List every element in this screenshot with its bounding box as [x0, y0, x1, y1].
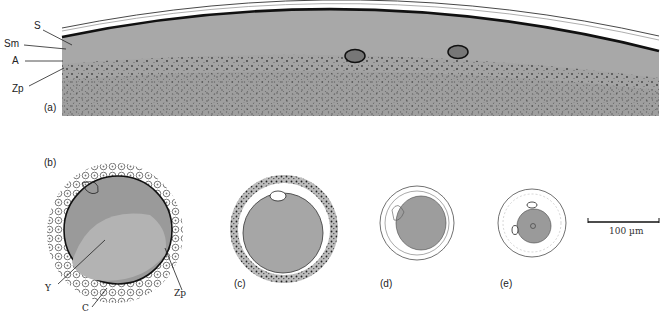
panel-label-b: (b): [44, 157, 56, 168]
scale-bar: [588, 218, 659, 223]
panel-a: [24, 0, 659, 116]
polar-body: [527, 202, 537, 208]
panel-label-c: (c): [234, 278, 246, 289]
panel-d: [380, 186, 454, 260]
egg-e: [517, 209, 551, 243]
leader-zp: [29, 68, 64, 86]
label-c: C: [82, 303, 89, 313]
panel-label-d: (d): [380, 278, 392, 289]
polar-body: [512, 226, 518, 235]
panel-label-a: (a): [44, 102, 56, 113]
egg-c: [243, 193, 323, 273]
panel-e: [498, 189, 566, 257]
figure-canvas: [0, 0, 671, 320]
egg-d: [396, 196, 446, 250]
nucleus: [448, 46, 468, 59]
leader-sm: [24, 45, 66, 49]
panel-label-e: (e): [500, 278, 512, 289]
scale-bar-label: 100 µm: [609, 226, 643, 236]
label-sm: Sm: [4, 38, 19, 49]
label-a: A: [12, 55, 19, 66]
polar-body: [270, 191, 286, 201]
panel-b: [47, 163, 183, 307]
label-y: Y: [45, 283, 51, 293]
panel-c: [230, 175, 338, 283]
label-zp-b: Zp: [174, 288, 186, 298]
nucleus: [345, 50, 365, 63]
label-zp: Zp: [12, 83, 24, 94]
label-s: S: [34, 20, 41, 31]
